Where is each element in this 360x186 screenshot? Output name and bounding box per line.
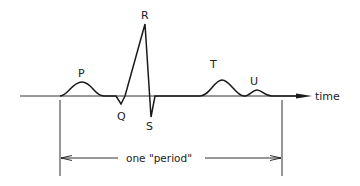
wave-label-t: T xyxy=(209,58,217,71)
wave-label-r: R xyxy=(141,9,149,22)
period-label: one "period" xyxy=(126,152,192,164)
wave-label-p: P xyxy=(78,67,85,80)
wave-label-u: U xyxy=(250,75,258,88)
wave-label-s: S xyxy=(146,120,153,133)
ecg-trace xyxy=(60,24,296,117)
time-axis-label: time xyxy=(315,90,340,103)
wave-label-q: Q xyxy=(117,110,126,123)
ecg-figure: time P Q R S T U one "period" xyxy=(0,0,360,186)
ecg-diagram: time P Q R S T U one "period" xyxy=(0,0,360,186)
time-axis-arrowhead-icon xyxy=(296,94,312,99)
